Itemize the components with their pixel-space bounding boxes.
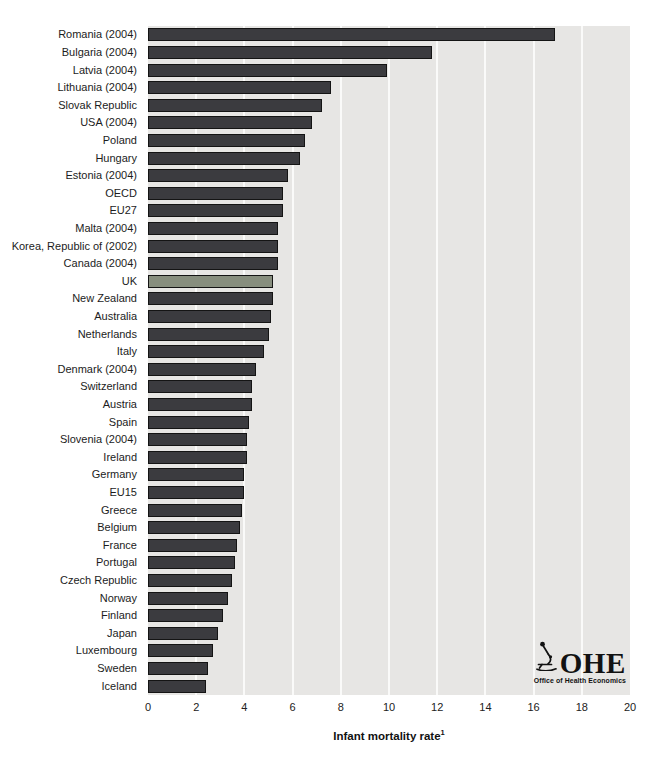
category-label: Slovak Republic (0, 99, 142, 112)
category-label: Switzerland (0, 380, 142, 393)
x-tick-label-18: 18 (576, 701, 588, 713)
gridline-12 (436, 26, 438, 695)
bar-spain (148, 416, 249, 429)
category-label: Belgium (0, 521, 142, 534)
x-axis-ticks: 02468101214161820 (148, 701, 630, 715)
plot-area: OHE Office of Health Economics (148, 26, 630, 695)
infant-mortality-bar-chart: OHE Office of Health Economics Romania (… (0, 0, 660, 764)
category-label: Poland (0, 134, 142, 147)
bar-finland (148, 609, 223, 622)
category-label: Japan (0, 627, 142, 640)
category-label: Spain (0, 416, 142, 429)
category-label: Bulgaria (2004) (0, 46, 142, 59)
x-tick-label-16: 16 (527, 701, 539, 713)
bar-austria (148, 398, 252, 411)
category-label: New Zealand (0, 292, 142, 305)
bar-canada-2004 (148, 257, 278, 270)
bar-germany (148, 468, 244, 481)
category-label: Iceland (0, 680, 142, 693)
category-label: Canada (2004) (0, 257, 142, 270)
bar-switzerland (148, 380, 252, 393)
category-label: Ireland (0, 451, 142, 464)
bar-japan (148, 627, 218, 640)
bar-slovak-republic (148, 99, 322, 112)
category-label: Austria (0, 398, 142, 411)
bar-poland (148, 134, 305, 147)
category-label: EU27 (0, 204, 142, 217)
bar-italy (148, 345, 264, 358)
x-tick-label-6: 6 (290, 701, 296, 713)
category-label: UK (0, 275, 142, 288)
x-tick-label-14: 14 (479, 701, 491, 713)
category-label: Latvia (2004) (0, 64, 142, 77)
bar-oecd (148, 187, 283, 200)
gridline-14 (484, 26, 486, 695)
category-label: Luxembourg (0, 644, 142, 657)
bar-france (148, 539, 237, 552)
category-label: Sweden (0, 662, 142, 675)
category-label: Denmark (2004) (0, 363, 142, 376)
x-tick-label-2: 2 (193, 701, 199, 713)
ohe-logo: OHE Office of Health Economics (534, 640, 626, 684)
x-tick-label-0: 0 (145, 701, 151, 713)
bar-malta-2004 (148, 222, 278, 235)
category-label: France (0, 539, 142, 552)
category-label: Romania (2004) (0, 28, 142, 41)
bar-korea-republic-of-2002 (148, 240, 278, 253)
category-label: EU15 (0, 486, 142, 499)
bar-belgium (148, 521, 240, 534)
bar-lithuania-2004 (148, 81, 331, 94)
bar-sweden (148, 662, 208, 675)
bar-estonia-2004 (148, 169, 288, 182)
category-label: Lithuania (2004) (0, 81, 142, 94)
category-label: Italy (0, 345, 142, 358)
gridline-16 (533, 26, 535, 695)
gridline-10 (388, 26, 390, 695)
x-tick-label-4: 4 (241, 701, 247, 713)
gridline-18 (581, 26, 583, 695)
bar-norway (148, 592, 228, 605)
bar-bulgaria-2004 (148, 46, 432, 59)
x-tick-label-12: 12 (431, 701, 443, 713)
bar-ireland (148, 451, 247, 464)
bar-hungary (148, 152, 300, 165)
category-label: Germany (0, 468, 142, 481)
bar-uk (148, 275, 273, 288)
bar-latvia-2004 (148, 64, 387, 77)
category-label: Slovenia (2004) (0, 433, 142, 446)
category-label: Portugal (0, 556, 142, 569)
microscope-icon (534, 640, 559, 675)
bar-greece (148, 504, 242, 517)
bar-portugal (148, 556, 235, 569)
bar-australia (148, 310, 271, 323)
bar-eu27 (148, 204, 283, 217)
bar-czech-republic (148, 574, 232, 587)
category-label: Greece (0, 504, 142, 517)
bar-luxembourg (148, 644, 213, 657)
bar-slovenia-2004 (148, 433, 247, 446)
logo-subtitle: Office of Health Economics (534, 677, 626, 684)
category-label: USA (2004) (0, 116, 142, 129)
x-tick-label-10: 10 (383, 701, 395, 713)
category-label: Finland (0, 609, 142, 622)
gridline-8 (340, 26, 342, 695)
logo-wordmark: OHE (560, 651, 626, 675)
category-label: OECD (0, 187, 142, 200)
x-tick-label-20: 20 (624, 701, 636, 713)
bar-new-zealand (148, 292, 273, 305)
category-label: Estonia (2004) (0, 169, 142, 182)
category-label: Czech Republic (0, 574, 142, 587)
bar-netherlands (148, 328, 269, 341)
category-labels: Romania (2004)Bulgaria (2004)Latvia (200… (0, 26, 142, 695)
x-tick-label-8: 8 (338, 701, 344, 713)
category-label: Australia (0, 310, 142, 323)
category-label: Netherlands (0, 328, 142, 341)
category-label: Malta (2004) (0, 222, 142, 235)
bar-usa-2004 (148, 116, 312, 129)
category-label: Hungary (0, 152, 142, 165)
bar-romania-2004 (148, 28, 555, 41)
category-label: Norway (0, 592, 142, 605)
bar-eu15 (148, 486, 244, 499)
bar-denmark-2004 (148, 363, 256, 376)
bar-iceland (148, 680, 206, 693)
